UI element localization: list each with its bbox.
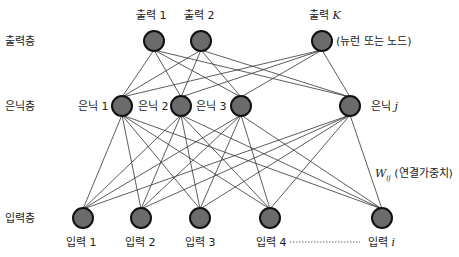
- output-layer-label: 출력층: [5, 36, 35, 47]
- input-node-i-var: i: [392, 236, 396, 249]
- hidden-node-2: [171, 96, 191, 116]
- edge-hidden2-input1: [83, 115, 181, 209]
- output-node-k-var: K: [333, 9, 341, 22]
- edge-hidden4-input5: [350, 115, 382, 209]
- hidden-node-3: [231, 96, 251, 116]
- input-node-2-label: 입력 2: [125, 237, 156, 248]
- edge-hidden1-input1: [83, 115, 122, 209]
- output-node-2: [191, 31, 211, 51]
- input-node-3: [190, 208, 210, 228]
- hidden-node-j-text: 은닉: [371, 100, 391, 113]
- edge-output1-hidden1: [122, 50, 154, 97]
- input-layer-label: 입력층: [5, 213, 35, 224]
- weight-symbol: Wij: [375, 167, 391, 180]
- hidden-node-1: [112, 96, 132, 116]
- input-node-1: [73, 208, 93, 228]
- hidden-layer-label: 은닉층: [5, 101, 35, 112]
- input-node-i-text: 입력: [368, 236, 388, 249]
- edge-hidden1-input4: [122, 115, 270, 209]
- hidden-node-j-label: 은닉 j: [371, 101, 398, 112]
- output-node-2-label: 출력 2: [184, 10, 215, 21]
- weight-annotation: Wij (연결가중치): [375, 168, 453, 182]
- input-node-5: [372, 208, 392, 228]
- edge-hidden3-input3: [200, 115, 241, 209]
- edge-output2-hidden1: [122, 50, 201, 97]
- output-node-k-label: 출력 K: [309, 10, 341, 21]
- edge-hidden4-input3: [200, 115, 350, 209]
- input-node-i-label: 입력 i: [368, 237, 395, 248]
- hidden-node-1-label: 은닉 1: [78, 101, 109, 112]
- edge-hidden3-input5: [241, 115, 382, 209]
- hidden-node-4: [340, 96, 360, 116]
- output-node-1-label: 출력 1: [136, 10, 167, 21]
- output-node-k-text: 출력: [309, 9, 329, 22]
- input-node-1-label: 입력 1: [66, 237, 97, 248]
- input-node-2: [131, 208, 151, 228]
- neuron-or-node-note: (뉴런 또는 노드): [336, 36, 412, 47]
- neuron-nodes: [73, 31, 392, 228]
- input-node-4: [260, 208, 280, 228]
- output-node-3: [312, 31, 332, 51]
- hidden-node-2-label: 은닉 2: [138, 101, 169, 112]
- hidden-node-j-var: j: [395, 100, 398, 113]
- edge-output3-hidden4: [322, 50, 350, 97]
- edge-output3-hidden1: [122, 50, 322, 97]
- output-node-1: [144, 31, 164, 51]
- edge-output3-hidden2: [181, 50, 322, 97]
- weight-note: (연결가중치): [394, 167, 453, 180]
- input-node-3-label: 입력 3: [185, 237, 216, 248]
- connection-edges: [83, 50, 382, 209]
- hidden-node-3-label: 은닉 3: [196, 101, 227, 112]
- input-node-4-label: 입력 4: [256, 237, 287, 248]
